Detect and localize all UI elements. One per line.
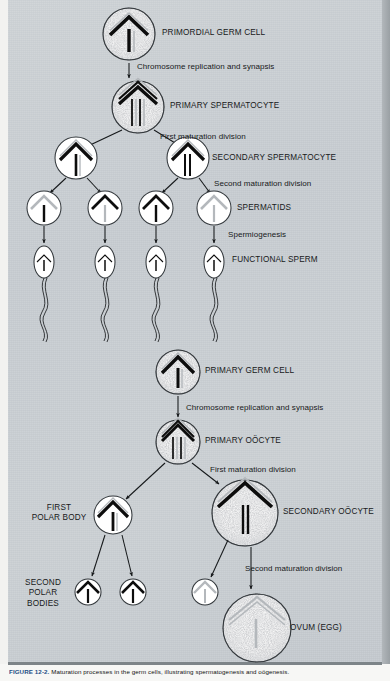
cell-ovum	[223, 594, 291, 662]
arrow-to-spermatid-4	[199, 178, 210, 193]
label-primordial-germ-cell: PRIMORDIAL GERM CELL	[162, 29, 265, 38]
figure-caption: FIGURE 12-2. Maturation processes in the…	[9, 668, 389, 675]
label-step-second-maturation-division-female: Second maturation division	[245, 565, 342, 573]
arrow-to-spermatid-1	[50, 178, 66, 193]
label-step-first-maturation-division-female: First maturation division	[210, 466, 296, 474]
cell-primary-spermatocyte	[112, 79, 164, 134]
label-step-first-maturation-division-male: First maturation division	[160, 133, 246, 141]
arrow-to-spermatid-3	[162, 178, 178, 193]
cell-second-polar-body-2	[120, 579, 146, 605]
label-step-second-maturation-division-male: Second maturation division	[214, 180, 311, 188]
cell-spermatid-3	[139, 191, 173, 225]
arrow-to-second-polar-body-3	[211, 540, 228, 577]
figure-caption-text: Maturation processes in the germ cells, …	[51, 668, 289, 675]
cell-primary-oocyte	[156, 418, 200, 464]
cell-primordial-germ-cell	[103, 8, 155, 60]
cell-secondary-spermatocyte-right	[167, 137, 209, 179]
cell-spermatid-2	[88, 191, 122, 225]
arrow-to-spermatid-2	[87, 178, 101, 193]
figure-root: .cellOutline{fill:#ffffff;stroke:#33383c…	[0, 0, 390, 681]
cell-spermatid-1	[27, 191, 61, 225]
cell-secondary-oocyte	[212, 478, 278, 546]
label-primary-oocyte: PRIMARY OÖCYTE	[205, 437, 281, 446]
arrow-to-second-polar-body-1	[92, 535, 105, 576]
label-first-polar-body: FIRSTPOLAR BODY	[28, 503, 90, 524]
figure-caption-label: FIGURE 12-2.	[9, 668, 49, 675]
label-step-chromosome-replication-male: Chromosome replication and synapsis	[137, 63, 274, 71]
label-step-chromosome-replication-female: Chromosome replication and synapsis	[186, 404, 323, 412]
cell-sperm-4	[204, 246, 224, 342]
label-primary-spermatocyte: PRIMARY SPERMATOCYTE	[170, 102, 279, 111]
cell-sperm-3	[146, 246, 166, 342]
cell-second-polar-body-3	[192, 579, 218, 605]
cell-first-polar-body	[94, 496, 132, 534]
label-primary-germ-cell: PRIMARY GERM CELL	[205, 367, 294, 376]
cell-sperm-1	[34, 246, 54, 342]
cell-sperm-2	[95, 246, 115, 342]
cell-second-polar-body-1	[75, 579, 101, 605]
cell-secondary-spermatocyte-left	[55, 137, 97, 179]
arrow-to-secondary-spermatocyte-left	[88, 130, 122, 146]
label-second-polar-bodies: SECONDPOLARBODIES	[14, 578, 72, 609]
label-spermatids: SPERMATIDS	[237, 204, 291, 213]
cell-primary-germ-cell	[156, 350, 200, 394]
label-secondary-spermatocyte: SECONDARY SPERMATOCYTE	[212, 154, 336, 163]
arrow-to-second-polar-body-2	[122, 535, 132, 576]
arrow-to-first-polar-body	[126, 463, 165, 499]
label-secondary-oocyte: SECONDARY OÖCYTE	[283, 508, 374, 517]
cell-spermatid-4	[197, 191, 231, 225]
label-step-spermiogenesis: Spermiogenesis	[228, 231, 286, 239]
label-functional-sperm: FUNCTIONAL SPERM	[232, 256, 318, 265]
label-ovum: OVUM (EGG)	[290, 624, 342, 633]
